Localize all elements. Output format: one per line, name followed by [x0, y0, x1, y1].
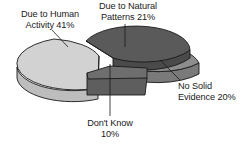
pie-label-evidence-line1: No Solid	[178, 81, 212, 91]
pie-label-dont-know: Don't Know 10%	[62, 118, 158, 140]
pie-label-natural-line1: Due to Natural	[99, 1, 157, 11]
pie-label-evidence-line2: Evidence 20%	[178, 92, 250, 103]
pie-label-dontknow-line2: 10%	[62, 129, 158, 140]
pie-label-natural-line2: Patterns 21%	[84, 12, 172, 23]
pie-label-due-to-human-activity: Due to Human Activity 41%	[9, 9, 91, 31]
pie-slice-due-to-natural-patterns	[86, 26, 190, 70]
slice-top-natural	[86, 26, 190, 62]
pie-label-no-solid-evidence: No Solid Evidence 20%	[178, 81, 250, 103]
pie-slice-dont-know	[87, 66, 147, 95]
pie-label-human-line1: Due to Human	[21, 9, 79, 19]
pie-label-dontknow-line1: Don't Know	[87, 118, 133, 128]
pie-label-due-to-natural-patterns: Due to Natural Patterns 21%	[84, 1, 172, 23]
pie-label-human-line2: Activity 41%	[9, 20, 91, 31]
pie-chart-figure: Due to Human Activity 41% Due to Natural…	[0, 0, 250, 147]
